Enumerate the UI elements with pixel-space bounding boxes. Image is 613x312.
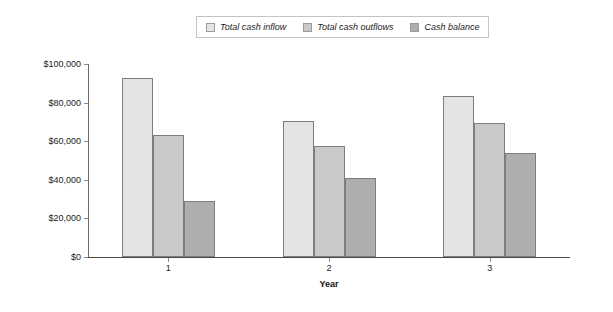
y-tick-label: $80,000: [48, 98, 81, 108]
legend-item-total-cash-inflow: Total cash inflow: [206, 23, 286, 32]
y-tick-label: $20,000: [48, 213, 81, 223]
legend-label-total-cash-inflow: Total cash inflow: [220, 23, 286, 32]
bar: [314, 146, 345, 257]
bar-group-year-2: [283, 64, 376, 257]
x-tick-mark: [490, 258, 491, 262]
y-tick-mark: [84, 141, 88, 142]
legend-swatch-cash-balance: [410, 23, 419, 32]
bar: [122, 78, 153, 257]
bar-chart: Total cash inflow Total cash outflows Ca…: [0, 0, 613, 312]
x-tick-mark: [168, 258, 169, 262]
x-axis-title: Year: [319, 279, 338, 289]
y-axis-line: [88, 64, 89, 257]
y-tick-label: $0: [71, 252, 81, 262]
y-tick-mark: [84, 180, 88, 181]
plot-area: $0$20,000$40,000$60,000$80,000$100,000 1…: [88, 64, 570, 257]
bar-group-year-3: [443, 64, 536, 257]
legend-label-cash-balance: Cash balance: [424, 23, 479, 32]
legend-item-total-cash-outflows: Total cash outflows: [303, 23, 393, 32]
bar: [505, 153, 536, 257]
y-tick-mark: [84, 103, 88, 104]
bar: [153, 135, 184, 257]
bar: [443, 96, 474, 257]
bar-group-year-1: [122, 64, 215, 257]
legend-swatch-total-cash-inflow: [206, 23, 215, 32]
y-tick-label: $40,000: [48, 175, 81, 185]
bar: [184, 201, 215, 257]
legend-swatch-total-cash-outflows: [303, 23, 312, 32]
chart-legend: Total cash inflow Total cash outflows Ca…: [196, 16, 489, 38]
x-tick-label: 1: [166, 263, 171, 273]
y-tick-label: $60,000: [48, 136, 81, 146]
bar: [474, 123, 505, 257]
x-tick-mark: [329, 258, 330, 262]
bar: [345, 178, 376, 257]
y-tick-mark: [84, 218, 88, 219]
legend-item-cash-balance: Cash balance: [410, 23, 479, 32]
y-tick-mark: [84, 64, 88, 65]
y-tick-label: $100,000: [43, 59, 81, 69]
bar: [283, 121, 314, 257]
y-tick-mark: [84, 257, 88, 258]
legend-label-total-cash-outflows: Total cash outflows: [317, 23, 393, 32]
x-tick-label: 3: [487, 263, 492, 273]
x-tick-label: 2: [326, 263, 331, 273]
